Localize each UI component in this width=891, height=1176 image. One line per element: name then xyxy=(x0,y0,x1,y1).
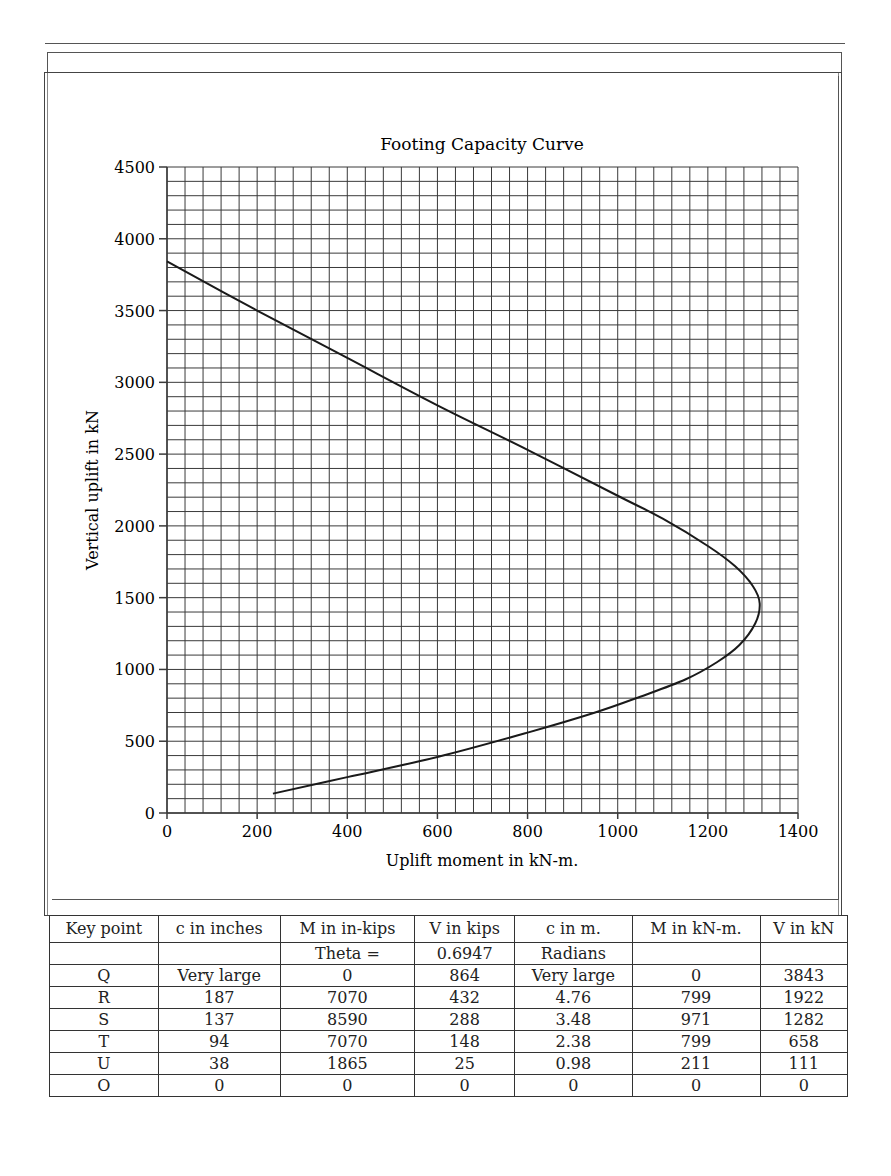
table-row: U381865250.98211111 xyxy=(50,1053,848,1075)
chart-title: Footing Capacity Curve xyxy=(380,134,584,154)
table-cell: 0 xyxy=(280,1075,414,1097)
y-tick-label: 1500 xyxy=(114,589,155,608)
table-header-cell: c in inches xyxy=(158,916,280,943)
table-cell: Radians xyxy=(515,943,632,965)
y-tick-label: 2000 xyxy=(114,517,155,536)
x-tick-label: 1200 xyxy=(687,822,728,841)
table-header-cell: M in kN-m. xyxy=(632,916,760,943)
table-cell: 7070 xyxy=(280,1031,414,1053)
y-tick-label: 2500 xyxy=(114,445,155,464)
table-cell: 1922 xyxy=(760,987,848,1009)
table-cell: 3843 xyxy=(760,965,848,987)
table-cell: 0 xyxy=(632,1075,760,1097)
x-axis-label: Uplift moment in kN-m. xyxy=(386,851,579,870)
table-cell: O xyxy=(50,1075,159,1097)
table-cell: 0 xyxy=(632,965,760,987)
table-cell: 137 xyxy=(158,1009,280,1031)
y-tick-label: 4000 xyxy=(114,230,155,249)
x-tick-label: 0 xyxy=(162,822,172,841)
table-cell: 0 xyxy=(515,1075,632,1097)
y-tick-label: 500 xyxy=(124,732,155,751)
table-cell: Q xyxy=(50,965,159,987)
x-tick-label: 400 xyxy=(332,822,363,841)
table-cell: 8590 xyxy=(280,1009,414,1031)
table-row: R18770704324.767991922 xyxy=(50,987,848,1009)
table-cell xyxy=(760,943,848,965)
table-row: Theta =0.6947Radians xyxy=(50,943,848,965)
x-tick-label: 200 xyxy=(242,822,273,841)
table-cell xyxy=(158,943,280,965)
footing-capacity-chart: Footing Capacity Curve 02004006008001000… xyxy=(0,0,891,910)
table-cell: Theta = xyxy=(280,943,414,965)
table-header-row: Key pointc in inchesM in in-kipsV in kip… xyxy=(50,916,848,943)
table-cell: 658 xyxy=(760,1031,848,1053)
table-cell: 971 xyxy=(632,1009,760,1031)
table-cell: 0 xyxy=(760,1075,848,1097)
table-cell: 0.98 xyxy=(515,1053,632,1075)
table-cell: 148 xyxy=(415,1031,515,1053)
table-cell: R xyxy=(50,987,159,1009)
y-tick-label: 0 xyxy=(145,804,155,823)
table-cell: S xyxy=(50,1009,159,1031)
table-header-cell: V in kips xyxy=(415,916,515,943)
table-cell: 187 xyxy=(158,987,280,1009)
capacity-curve xyxy=(167,261,760,793)
table-cell: Very large xyxy=(515,965,632,987)
table-cell: 94 xyxy=(158,1031,280,1053)
table-cell: 0 xyxy=(158,1075,280,1097)
table-cell: T xyxy=(50,1031,159,1053)
table-cell: 7070 xyxy=(280,987,414,1009)
table-cell: 432 xyxy=(415,987,515,1009)
y-tick-label: 1000 xyxy=(114,660,155,679)
table-cell: 4.76 xyxy=(515,987,632,1009)
table-cell: 1865 xyxy=(280,1053,414,1075)
table-row: T9470701482.38799658 xyxy=(50,1031,848,1053)
y-tick-label: 3000 xyxy=(114,373,155,392)
key-points-table: Key pointc in inchesM in in-kipsV in kip… xyxy=(49,915,848,1097)
table-cell: Very large xyxy=(158,965,280,987)
table-row: QVery large0864Very large03843 xyxy=(50,965,848,987)
table-cell: 0 xyxy=(280,965,414,987)
table-header-cell: c in m. xyxy=(515,916,632,943)
axis-ticks: 0200400600800100012001400050010001500200… xyxy=(114,158,818,841)
table-header-cell: Key point xyxy=(50,916,159,943)
table-cell: 0 xyxy=(415,1075,515,1097)
x-tick-label: 1000 xyxy=(597,822,638,841)
table-cell: 288 xyxy=(415,1009,515,1031)
table-cell: 1282 xyxy=(760,1009,848,1031)
table-cell: 864 xyxy=(415,965,515,987)
x-tick-label: 800 xyxy=(512,822,543,841)
table-cell: 25 xyxy=(415,1053,515,1075)
table-cell xyxy=(50,943,159,965)
x-tick-label: 600 xyxy=(422,822,453,841)
table-cell: 3.48 xyxy=(515,1009,632,1031)
key-points-table-body: Key pointc in inchesM in in-kipsV in kip… xyxy=(50,916,848,1097)
table-cell: 38 xyxy=(158,1053,280,1075)
table-cell: 799 xyxy=(632,987,760,1009)
x-tick-label: 1400 xyxy=(778,822,819,841)
y-tick-label: 4500 xyxy=(114,158,155,177)
table-cell: 799 xyxy=(632,1031,760,1053)
chart-grid xyxy=(167,167,798,813)
table-header-cell: M in in-kips xyxy=(280,916,414,943)
table-row: O000000 xyxy=(50,1075,848,1097)
table-cell: 211 xyxy=(632,1053,760,1075)
y-tick-label: 3500 xyxy=(114,302,155,321)
table-cell: U xyxy=(50,1053,159,1075)
table-cell xyxy=(632,943,760,965)
table-cell: 0.6947 xyxy=(415,943,515,965)
table-cell: 2.38 xyxy=(515,1031,632,1053)
table-cell: 111 xyxy=(760,1053,848,1075)
y-axis-label: Vertical uplift in kN xyxy=(83,410,102,571)
table-row: S13785902883.489711282 xyxy=(50,1009,848,1031)
table-header-cell: V in kN xyxy=(760,916,848,943)
